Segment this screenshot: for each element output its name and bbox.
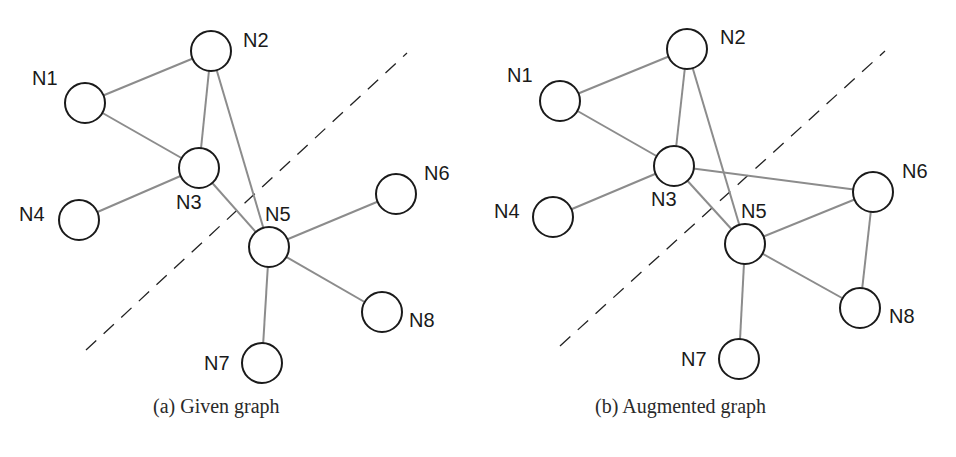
node-n4 xyxy=(533,197,573,237)
node-label-n8: N8 xyxy=(409,309,435,331)
node-n3 xyxy=(179,148,219,188)
node-label-n3: N3 xyxy=(651,188,677,210)
panel-given-graph: N1N2N3N4N5N6N7N8 xyxy=(19,29,450,383)
node-label-n3: N3 xyxy=(176,191,202,213)
node-n1 xyxy=(65,83,105,123)
node-label-n8: N8 xyxy=(889,305,915,327)
node-label-n4: N4 xyxy=(19,203,45,225)
node-n2 xyxy=(191,31,231,71)
node-label-n6: N6 xyxy=(902,160,928,182)
node-label-n7: N7 xyxy=(681,348,707,370)
caption-augmented-graph: (b) Augmented graph xyxy=(595,395,766,418)
node-n2 xyxy=(667,29,707,69)
edge-n2-n5 xyxy=(687,49,745,244)
edge-n2-n5 xyxy=(211,51,269,247)
node-label-n6: N6 xyxy=(424,162,450,184)
node-n6 xyxy=(376,174,416,214)
node-n5 xyxy=(249,227,289,267)
node-n8 xyxy=(362,292,402,332)
node-n7 xyxy=(242,343,282,383)
graph-figure: N1N2N3N4N5N6N7N8 N1N2N3N4N5N6N7N8 xyxy=(0,0,956,457)
panel-augmented-graph: N1N2N3N4N5N6N7N8 xyxy=(494,26,928,379)
node-n1 xyxy=(540,81,580,121)
edge-n3-n6 xyxy=(674,166,873,192)
node-label-n4: N4 xyxy=(494,200,520,222)
node-n7 xyxy=(719,339,759,379)
node-label-n2: N2 xyxy=(720,26,746,48)
node-label-n5: N5 xyxy=(741,200,767,222)
node-label-n2: N2 xyxy=(243,29,269,51)
node-label-n5: N5 xyxy=(265,203,291,225)
node-n4 xyxy=(59,200,99,240)
node-label-n7: N7 xyxy=(204,352,230,374)
dashed-cut-line xyxy=(86,53,407,350)
node-label-n1: N1 xyxy=(32,67,58,89)
node-n8 xyxy=(840,288,880,328)
node-n5 xyxy=(725,224,765,264)
caption-given-graph: (a) Given graph xyxy=(153,395,280,418)
dashed-cut-line xyxy=(560,51,885,346)
node-n3 xyxy=(654,146,694,186)
node-label-n1: N1 xyxy=(507,64,533,86)
node-n6 xyxy=(853,172,893,212)
